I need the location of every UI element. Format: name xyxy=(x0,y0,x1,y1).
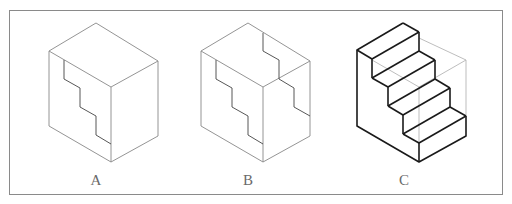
panel-label-c: C xyxy=(389,172,419,189)
cube-b xyxy=(201,23,310,162)
panel-label-b: B xyxy=(233,172,263,189)
staircase-c xyxy=(357,23,466,162)
cube-a xyxy=(49,23,158,162)
panel-label-a: A xyxy=(81,172,111,189)
